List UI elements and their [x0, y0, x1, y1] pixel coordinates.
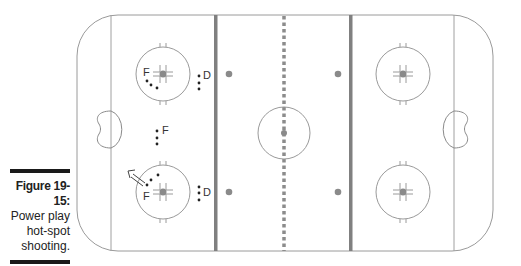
player-label: D: [203, 69, 211, 81]
neutral-dot-top-left: [226, 71, 233, 78]
shot-arrow-icon: [128, 170, 145, 186]
hockey-rink-diagram: F D F F D: [0, 0, 521, 266]
player-label: D: [203, 186, 211, 198]
right-goal-crease: [443, 111, 454, 148]
left-blue-line: [214, 15, 218, 251]
player-defense-bottom: D: [198, 186, 211, 202]
player-label: F: [162, 124, 169, 136]
right-blue-line: [349, 15, 353, 251]
faceoff-circle-top-right: [376, 43, 430, 105]
center-faceoff-dot: [281, 130, 287, 136]
right-goal-net: [454, 111, 468, 148]
player-forward-slot: F: [156, 124, 169, 145]
player-label: F: [143, 66, 150, 78]
left-goal-crease: [111, 111, 122, 148]
player-label: F: [143, 190, 150, 202]
player-forward-top: F: [143, 66, 158, 89]
left-goal-net: [97, 111, 111, 148]
faceoff-circle-bottom-right: [376, 161, 430, 223]
player-forward-bottom: F: [143, 174, 159, 202]
player-defense-top: D: [198, 69, 211, 90]
neutral-dot-bottom-left: [226, 189, 233, 196]
neutral-dot-bottom-right: [335, 189, 342, 196]
neutral-dot-top-right: [335, 71, 342, 78]
